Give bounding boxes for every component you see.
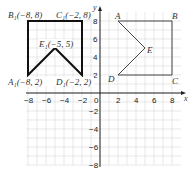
x-tick-label: 4 [134,96,139,105]
vertex-label-D: D [107,74,115,84]
vertex-label-D1: D₁(−2, 2) [55,77,91,87]
x-axis-label: x [183,94,188,103]
y-tick-label: −2 [89,107,99,116]
x-tick-label: 8 [170,96,175,105]
vertex-label-E1: E₁(−5, 5) [38,39,73,49]
vertex-label-A: A [114,11,121,21]
x-tick-label: −4 [60,96,70,105]
x-tick-label: −2 [78,96,88,105]
grid-lines [26,12,181,165]
y-tick-label: 4 [93,53,98,62]
x-tick-label: 0 [94,96,99,105]
y-axis-arrow-icon [98,6,102,11]
x-tick-label: 6 [152,96,157,105]
vertex-label-E: E [146,45,153,55]
y-tick-label: −6 [89,143,99,152]
vertex-label-B: B [172,11,178,21]
x-tick-label: −8 [24,96,34,105]
coordinate-plane: x y −8 −6 −4 −2 0 2 4 6 8 8 6 4 2 −2 −4 … [0,0,192,170]
y-tick-label: −4 [89,125,99,134]
y-tick-label: −8 [89,161,99,170]
y-tick-label: 8 [93,17,98,26]
vertex-label-C1: C₁(−2, 8) [56,10,91,20]
x-tick-label: 2 [116,96,121,105]
vertex-label-A1: A₁(−8, 2) [7,77,42,87]
x-tick-label: −6 [42,96,52,105]
vertex-label-B1: B₁(−8, 8) [8,10,42,20]
y-tick-label: 6 [93,35,98,44]
vertex-label-C: C [172,76,179,86]
y-axis-label: y [92,3,97,12]
